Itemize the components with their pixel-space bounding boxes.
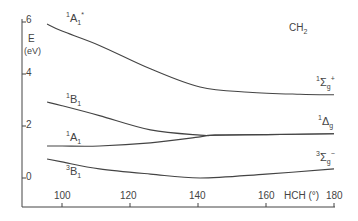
y-tick-label-0: 0 (26, 172, 32, 182)
y-axis-label: E (28, 34, 35, 44)
x-tick-label-180: 180 (326, 191, 343, 201)
y-tick-label-2: 2 (26, 120, 32, 130)
x-tick-label-120: 120 (120, 191, 137, 201)
molecule-label: CH2 (289, 23, 307, 35)
state-label-1A1: 1A1 (66, 130, 81, 145)
y-tick-label-4: 4 (26, 68, 32, 78)
x-tick-label-140: 140 (189, 191, 206, 201)
curves (47, 24, 334, 178)
x-tick-label-100: 100 (54, 191, 71, 201)
x-ticks (62, 203, 334, 207)
state-label-1Sigma-g-plus: 1Σg+ (316, 75, 335, 90)
y-tick-label-6: 6 (26, 15, 32, 25)
state-label-1B1: 1B1 (66, 92, 81, 107)
y-axis-unit: (eV) (24, 47, 41, 56)
state-label-1A1-star: 1A1* (66, 11, 84, 26)
curve-1B1 (47, 102, 334, 135)
curve-3B1 (47, 159, 334, 178)
curve-1A1 (47, 134, 334, 146)
x-axis-label: HCH (°) (284, 191, 319, 201)
state-label-3Sigma-g-minus: 3Σg− (316, 150, 335, 165)
state-label-3B1: 3B1 (66, 164, 81, 179)
x-tick-label-160: 160 (258, 191, 275, 201)
state-label-1Delta-g: 1Δg (318, 114, 333, 129)
